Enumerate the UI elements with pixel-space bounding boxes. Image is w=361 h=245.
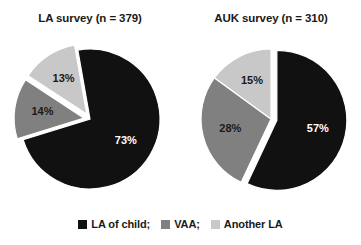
chart-panel-la-survey: LA survey (n = 379) 73%14%13% xyxy=(0,0,180,210)
panel-title-la-survey: LA survey (n = 379) xyxy=(0,12,180,24)
legend-label: LA of child; xyxy=(91,218,150,230)
legend-item[interactable]: LA of child; xyxy=(78,218,150,230)
legend-label: Another LA xyxy=(224,218,283,230)
pie-slice-label: 28% xyxy=(219,122,241,134)
pie-svg: 73%14%13% xyxy=(0,30,180,208)
chart-panel-auk-survey: AUK survey (n = 310) 57%28%15% xyxy=(181,0,361,210)
pie-slice-label: 14% xyxy=(31,105,53,117)
legend-label: VAA; xyxy=(174,218,200,230)
legend-item[interactable]: Another LA xyxy=(211,218,283,230)
pie-slice-label: 73% xyxy=(115,134,137,146)
pie-chart-figure: LA survey (n = 379) 73%14%13% AUK survey… xyxy=(0,0,361,245)
chart-panels: LA survey (n = 379) 73%14%13% AUK survey… xyxy=(0,0,361,210)
pie-slice-label: 57% xyxy=(307,122,329,134)
pie-slice-label: 15% xyxy=(241,74,263,86)
pie-chart-auk-survey: 57%28%15% xyxy=(181,30,361,208)
panel-title-auk-survey: AUK survey (n = 310) xyxy=(181,12,361,24)
pie-slice-label: 13% xyxy=(53,72,75,84)
legend-swatch-icon xyxy=(211,220,220,229)
pie-chart-la-survey: 73%14%13% xyxy=(0,30,180,208)
chart-legend: LA of child;VAA;Another LA xyxy=(0,212,361,236)
legend-swatch-icon xyxy=(78,220,87,229)
pie-svg: 57%28%15% xyxy=(181,30,361,208)
legend-item[interactable]: VAA; xyxy=(161,218,200,230)
legend-swatch-icon xyxy=(161,220,170,229)
